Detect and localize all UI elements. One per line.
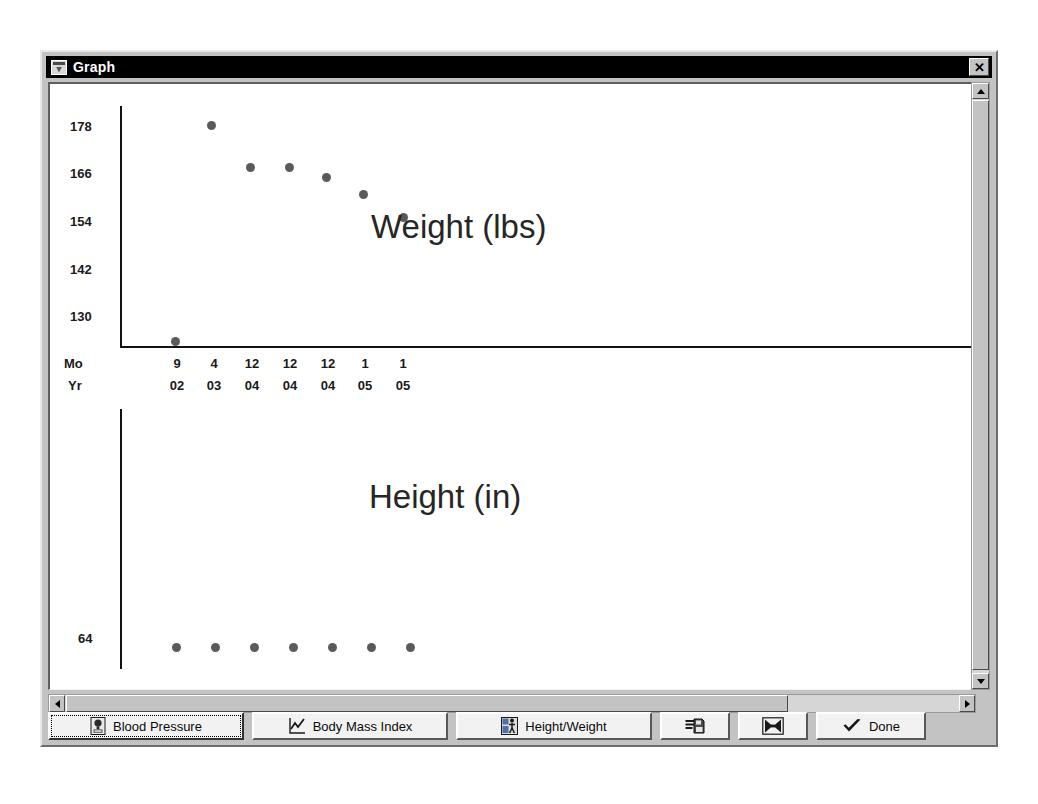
weight-point-1 [207, 121, 216, 130]
blood-pressure-cuff-icon [90, 717, 106, 735]
weight-xaxis-row-label-yr: Yr [68, 378, 82, 393]
scroll-right-button[interactable] [959, 695, 975, 712]
checkmark-icon [842, 718, 862, 734]
scroll-up-button[interactable] [972, 83, 989, 99]
weight-point-2 [246, 163, 255, 172]
weight-xtick-mo-1: 4 [210, 356, 217, 371]
weight-xtick-yr-0: 02 [170, 378, 184, 393]
weight-point-3 [285, 163, 294, 172]
window-graph-icon [51, 60, 67, 75]
scroll-down-button[interactable] [972, 673, 989, 689]
person-ruler-icon [501, 717, 518, 735]
horizontal-scrollbar-thumb[interactable] [66, 695, 788, 712]
weight-xtick-mo-2: 12 [245, 356, 259, 371]
weight-ytick-4: 130 [70, 309, 92, 324]
chevron-down-icon [977, 679, 985, 684]
body-mass-index-button-label: Body Mass Index [313, 719, 413, 734]
height-ytick-0: 64 [78, 631, 92, 646]
window-title: Graph [73, 59, 115, 75]
weight-ytick-0: 178 [70, 119, 92, 134]
done-button[interactable]: Done [816, 712, 926, 740]
height-point-2 [250, 643, 259, 652]
height-chart-y-axis [120, 409, 122, 669]
title-bar: Graph ✕ [46, 56, 992, 78]
weight-xtick-yr-5: 05 [358, 378, 372, 393]
height-chart-title: Height (in) [369, 478, 521, 516]
weight-ytick-3: 142 [70, 262, 92, 277]
height-weight-button[interactable]: Height/Weight [456, 712, 652, 740]
chart-client-area: 178 166 154 142 130 Weight (lbs) Mo Yr 9… [48, 82, 976, 690]
close-button[interactable]: ✕ [969, 58, 989, 76]
print-button[interactable] [660, 712, 730, 740]
height-point-6 [406, 643, 415, 652]
weight-xtick-yr-3: 04 [283, 378, 297, 393]
weight-xtick-yr-4: 04 [321, 378, 335, 393]
weight-point-4 [322, 173, 331, 182]
weight-xtick-mo-0: 9 [173, 356, 180, 371]
zoom-fit-button[interactable] [738, 712, 808, 740]
chevron-left-icon [55, 700, 60, 708]
vertical-scrollbar[interactable] [971, 82, 990, 690]
weight-xtick-yr-2: 04 [245, 378, 259, 393]
chart-surface: 178 166 154 142 130 Weight (lbs) Mo Yr 9… [50, 84, 975, 689]
weight-xtick-mo-4: 12 [321, 356, 335, 371]
height-point-3 [289, 643, 298, 652]
chevron-right-icon [965, 700, 970, 708]
weight-xtick-yr-6: 05 [396, 378, 410, 393]
weight-point-5 [359, 190, 368, 199]
weight-ytick-2: 154 [70, 214, 92, 229]
weight-xtick-mo-3: 12 [283, 356, 297, 371]
graph-window: Graph ✕ 178 166 154 142 130 [40, 50, 998, 747]
blood-pressure-button-label: Blood Pressure [113, 719, 202, 734]
printer-icon [685, 717, 705, 735]
blood-pressure-button[interactable]: Blood Pressure [48, 712, 244, 740]
screenshot-root: Graph ✕ 178 166 154 142 130 [0, 0, 1038, 804]
done-button-label: Done [869, 719, 900, 734]
weight-xtick-yr-1: 03 [207, 378, 221, 393]
chevron-up-icon [977, 89, 985, 94]
height-point-0 [172, 643, 181, 652]
weight-xtick-mo-6: 1 [399, 356, 406, 371]
height-point-5 [367, 643, 376, 652]
weight-ytick-1: 166 [70, 166, 92, 181]
height-point-1 [211, 643, 220, 652]
height-point-4 [328, 643, 337, 652]
weight-xtick-mo-5: 1 [361, 356, 368, 371]
line-chart-icon [288, 717, 306, 735]
weight-chart-x-axis [120, 346, 976, 348]
height-weight-button-label: Height/Weight [525, 719, 606, 734]
button-bar: Blood Pressure Body Mass Index Height/We… [48, 711, 988, 741]
weight-chart-y-axis [120, 106, 122, 347]
vertical-scrollbar-thumb[interactable] [972, 100, 989, 670]
scroll-left-button[interactable] [49, 695, 65, 712]
body-mass-index-button[interactable]: Body Mass Index [252, 712, 448, 740]
weight-chart-title: Weight (lbs) [371, 208, 546, 246]
bowtie-zoom-icon [762, 717, 784, 735]
weight-point-0 [171, 337, 180, 346]
weight-xaxis-row-label-mo: Mo [64, 356, 83, 371]
